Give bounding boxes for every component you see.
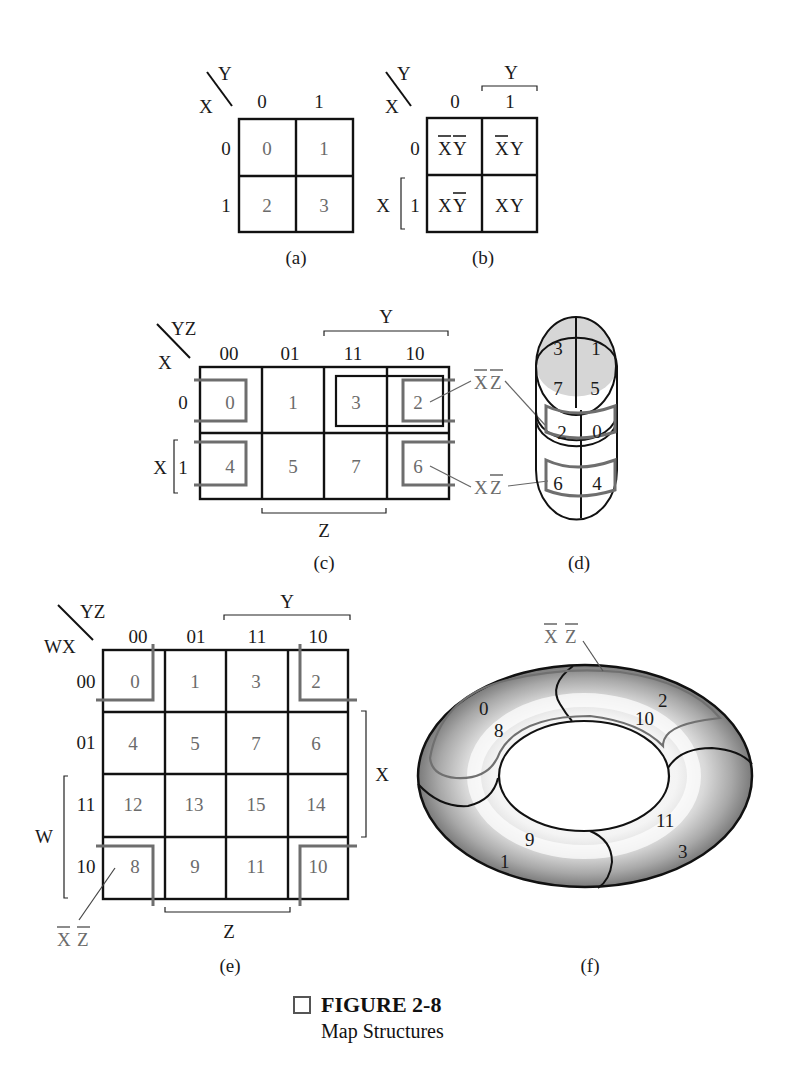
col-header: 01 (187, 626, 206, 647)
col-header: 10 (309, 626, 328, 647)
col-var-label: Y (397, 63, 411, 84)
col-header: 10 (406, 343, 425, 364)
cell-minterm: 0 (479, 698, 489, 719)
cell-minterm: 10 (309, 856, 328, 877)
svg-text:X: X (57, 929, 71, 950)
svg-text:Y: Y (510, 195, 524, 216)
cell-minterm: 0 (225, 392, 235, 413)
row-bracket-label: X (153, 457, 167, 478)
col-header: 1 (505, 91, 515, 112)
cell-minterm: 2 (262, 195, 272, 216)
annotation-x-zbar: X Z (474, 475, 503, 498)
row-header: 1 (178, 457, 188, 478)
leader-line (430, 381, 471, 402)
cell-minterm: 2 (311, 671, 321, 692)
cell-minterm: 2 (658, 690, 668, 711)
annotation-xbar-zbar: X Z (57, 927, 90, 950)
row-bracket-right-label: X (375, 764, 389, 785)
row-bracket-label: X (376, 195, 390, 216)
cell-minterm: 10 (635, 708, 654, 729)
cell-minterm: 4 (225, 456, 235, 477)
row-header: 1 (410, 195, 420, 216)
col-bracket-bottom (165, 907, 290, 912)
panel-e-4var-map: YZ WX Y 00 01 11 10 00 01 11 10 W X 0 1 (35, 591, 389, 977)
svg-text:X: X (438, 138, 452, 159)
svg-text:Z: Z (565, 626, 577, 647)
cell-term: X Y (495, 195, 524, 216)
row-header: 1 (221, 195, 231, 216)
cell-term: X Y (438, 193, 467, 216)
col-header: 0 (450, 91, 460, 112)
cell-minterm: 11 (656, 810, 674, 831)
cell-minterm: 3 (678, 841, 688, 862)
cell-minterm: 6 (311, 733, 321, 754)
row-header: 0 (221, 138, 231, 159)
cell-minterm: 5 (190, 733, 200, 754)
cell-minterm: 1 (288, 392, 298, 413)
cell-minterm: 9 (525, 829, 535, 850)
group-corner-bl (96, 846, 153, 906)
row-var-label: WX (44, 636, 76, 657)
panel-label: (b) (472, 247, 494, 269)
cell-minterm: 0 (130, 671, 140, 692)
cell-term: X Y (495, 136, 524, 159)
panel-c-3var-map: YZ X Y 00 01 11 10 0 1 X 0 1 3 2 4 5 7 6 (153, 306, 548, 574)
row-header: 0 (410, 138, 420, 159)
svg-text:Y: Y (510, 138, 524, 159)
col-header: 1 (314, 91, 324, 112)
col-header: 00 (129, 626, 148, 647)
cell-minterm: 7 (553, 378, 563, 399)
figure-number: FIGURE 2-8 (321, 992, 441, 1018)
figure-caption: FIGURE 2-8 Map Structures (293, 992, 444, 1043)
row-header: 0 (178, 392, 188, 413)
cell-minterm: 9 (190, 856, 200, 877)
cell-minterm: 8 (130, 856, 140, 877)
cell-minterm: 1 (190, 671, 200, 692)
cell-minterm: 12 (124, 794, 143, 815)
col-var-label: YZ (80, 601, 105, 622)
row-var-label: X (158, 352, 172, 373)
group-corner-tl (96, 644, 153, 700)
row-bracket-right (361, 711, 366, 837)
svg-text:Z: Z (77, 929, 89, 950)
cell-minterm: 2 (413, 392, 423, 413)
col-bracket-label: Y (504, 62, 518, 83)
group-xbar-zbar-right (403, 380, 455, 421)
figure-canvas: Y X 0 1 0 1 0 1 2 3 (a) Y X Y 0 1 0 1 X … (0, 0, 789, 1083)
col-var-label: Y (218, 63, 232, 84)
panel-d-cylinder-map: 3 1 7 5 2 0 6 4 (d) (536, 316, 617, 574)
svg-text:X: X (495, 138, 509, 159)
caption-square-icon (293, 996, 311, 1014)
cell-minterm: 5 (288, 456, 298, 477)
svg-text:X: X (495, 195, 509, 216)
col-var-label: YZ (171, 318, 196, 339)
panel-label: (a) (285, 247, 306, 269)
cell-minterm: 7 (351, 456, 361, 477)
col-header: 00 (220, 343, 239, 364)
cell-minterm: 3 (553, 338, 563, 359)
svg-text:Z: Z (490, 372, 502, 393)
row-var-label: X (385, 96, 399, 117)
cell-minterm: 4 (592, 473, 602, 494)
cell-minterm: 7 (251, 733, 261, 754)
panel-label: (d) (568, 552, 590, 574)
panel-f-torus-map: 0 8 2 10 9 1 11 3 X Z (f) (418, 624, 752, 977)
cell-term: X Y (438, 136, 467, 159)
cell-minterm: 1 (319, 138, 329, 159)
row-header: 01 (77, 732, 96, 753)
col-header: 01 (281, 343, 300, 364)
cell-minterm: 3 (319, 195, 329, 216)
col-bracket (224, 615, 350, 620)
svg-text:X: X (474, 372, 488, 393)
col-bracket-label: Y (379, 306, 393, 327)
panel-label: (c) (313, 552, 334, 574)
panel-label: (e) (219, 955, 240, 977)
row-bracket-left-label: W (35, 826, 53, 847)
cell-minterm: 2 (557, 422, 567, 443)
svg-text:Z: Z (490, 477, 502, 498)
annotation-xbar-zbar: X Z (474, 370, 503, 393)
svg-text:X: X (544, 626, 558, 647)
cell-minterm: 14 (307, 794, 327, 815)
cell-minterm: 8 (494, 720, 504, 741)
cell-minterm: 0 (592, 421, 602, 442)
